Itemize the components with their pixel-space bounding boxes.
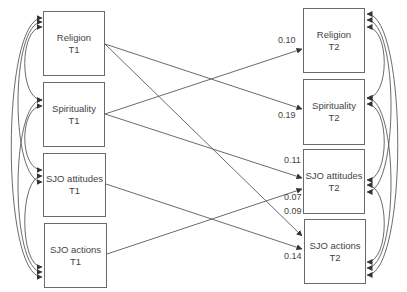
correlation-arc-sjo_attitudes_t2-sjo_actions_t2 (367, 185, 384, 262)
node-label: SJO attitudes (305, 170, 362, 182)
path-arrow-religion_t1-to-spirituality_t2 (105, 44, 302, 109)
node-religion-t1: Religion T1 (43, 11, 105, 76)
node-time: T1 (68, 115, 79, 127)
node-label: Spirituality (312, 100, 356, 112)
correlation-arc-spirituality_t2-sjo_attitudes_t2 (367, 104, 384, 180)
coefficient-label: 0.11 (284, 155, 301, 165)
node-label: SJO actions (309, 240, 360, 252)
correlation-arc-religion_t1-sjo_actions_t1 (11, 18, 42, 277)
regression-paths (105, 44, 302, 254)
correlation-arc-religion_t2-spirituality_t2 (367, 27, 384, 98)
path-arrow-sjo_actions_t1-to-sjo_attitudes_t2 (107, 189, 302, 254)
path-arrow-religion_t1-to-sjo_actions_t2 (105, 44, 302, 236)
correlation-arc-religion_t2-sjo_attitudes_t2 (367, 20, 391, 192)
node-time: T2 (328, 41, 339, 53)
node-sjo-actions-t1: SJO actions T1 (44, 223, 107, 288)
path-arrow-sjo_attitudes_t1-to-sjo_actions_t2 (106, 184, 302, 249)
node-time: T2 (329, 252, 340, 264)
path-arrow-spirituality_t1-to-sjo_attitudes_t2 (105, 114, 302, 178)
node-sjo-attitudes-t2: SJO attitudes T2 (303, 149, 365, 214)
node-time: T1 (70, 256, 81, 268)
node-sjo-actions-t2: SJO actions T2 (304, 219, 366, 284)
node-time: T1 (68, 44, 79, 56)
node-label: Spirituality (52, 103, 96, 115)
node-religion-t2: Religion T2 (303, 8, 365, 73)
node-label: Religion (317, 29, 351, 41)
node-sjo-attitudes-t1: SJO attitudes T1 (43, 153, 106, 217)
coefficient-label: 0.14 (284, 251, 302, 261)
coefficient-label: 0.07 (284, 192, 302, 202)
node-label: Religion (57, 32, 91, 44)
correlation-arc-religion_t2-sjo_actions_t2 (367, 14, 398, 275)
node-label: SJO actions (50, 244, 101, 256)
node-spirituality-t2: Spirituality T2 (303, 79, 365, 145)
node-time: T1 (69, 185, 80, 197)
coefficient-label: 0.09 (284, 206, 302, 216)
path-arrow-spirituality_t1-to-religion_t2 (105, 49, 302, 114)
correlation-arc-sjo_attitudes_t1-sjo_actions_t1 (25, 176, 42, 267)
node-time: T2 (328, 182, 339, 194)
node-label: SJO attitudes (46, 173, 103, 185)
coefficient-label: 0.10 (278, 35, 296, 45)
node-time: T2 (328, 112, 339, 124)
coefficient-label: 0.19 (278, 110, 296, 120)
node-spirituality-t1: Spirituality T1 (43, 82, 105, 147)
